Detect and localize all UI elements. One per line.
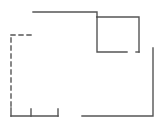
inner-box-left xyxy=(97,17,127,52)
top-wall xyxy=(33,12,97,17)
inner-box-top xyxy=(97,17,139,52)
floor-plan-diagram xyxy=(0,0,165,124)
right-wall xyxy=(82,48,153,116)
walls-group xyxy=(11,12,153,116)
